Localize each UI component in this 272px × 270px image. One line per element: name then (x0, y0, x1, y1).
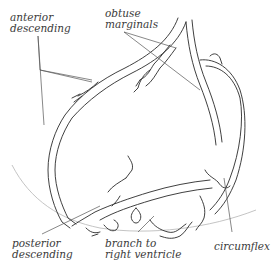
label-line: descending (12, 249, 73, 260)
label-line: circumflex (214, 241, 270, 252)
circumflex-vessel (200, 54, 245, 214)
label-anterior-descending: anterior descending (10, 12, 71, 34)
vessel-drawing (0, 0, 272, 270)
label-line: right ventricle (105, 249, 181, 260)
label-line: descending (10, 23, 71, 34)
posterior-branches (72, 156, 212, 238)
leader-posterior-descending (42, 206, 100, 234)
coronary-artery-diagram: anterior descending obtuse marginals pos… (0, 0, 272, 270)
obtuse-marginal-vessels (134, 20, 222, 145)
label-line: marginals (105, 19, 158, 30)
label-obtuse-marginals: obtuse marginals (105, 8, 158, 30)
label-posterior-descending: posterior descending (12, 238, 73, 260)
leader-anterior-descending (38, 36, 92, 125)
label-branch-to-right-ventricle: branch to right ventricle (105, 238, 181, 260)
label-circumflex: circumflex (214, 241, 270, 252)
leader-circumflex (224, 178, 232, 232)
